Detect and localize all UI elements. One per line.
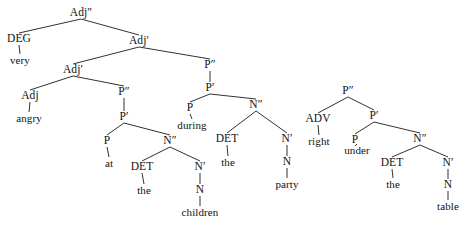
terminal-word-during: during <box>177 120 206 131</box>
terminal-word-children: children <box>182 207 219 218</box>
tree-node-n-bar2: N″ <box>249 99 262 111</box>
tree-node-p-bar2: P″ <box>118 86 129 98</box>
terminal-word-very: very <box>10 55 30 66</box>
terminal-word-right: right <box>308 136 329 147</box>
tree-node-n-bar: N′ <box>281 133 292 145</box>
tree-node-det: DET <box>131 161 154 173</box>
tree-node-n-bar: N′ <box>442 157 453 169</box>
tree-branch <box>107 147 109 157</box>
terminal-word-the: the <box>221 157 235 168</box>
terminal-word-the: the <box>386 179 400 190</box>
tree-branch <box>81 19 139 35</box>
terminal-word-table: table <box>437 201 459 212</box>
tree-node-adj-bar2: Adj″ <box>70 7 92 19</box>
tree-node-n: N <box>283 156 291 168</box>
tree-node-p-bar: P′ <box>369 110 378 122</box>
tree-branch <box>355 122 374 134</box>
tree-branch <box>73 47 139 64</box>
tree-node-adj-bar: Adj′ <box>63 64 83 76</box>
tree-branch <box>420 145 448 157</box>
tree-branch <box>170 147 200 161</box>
tree-branch <box>19 19 81 33</box>
syntax-tree-diagram: Adj″DEGveryAdj′Adj′AdjangryP″P′PatN″DETt… <box>0 0 465 225</box>
tree-node-adv: ADV <box>305 113 330 125</box>
tree-node-p: P <box>187 102 194 114</box>
tree-branch <box>392 145 420 157</box>
tree-branch <box>107 123 124 135</box>
tree-branch <box>73 76 124 86</box>
terminal-word-under: under <box>344 145 370 156</box>
tree-branch <box>30 76 73 90</box>
tree-node-p: P <box>104 135 111 147</box>
tree-branch <box>256 111 287 133</box>
tree-node-adj-bar: Adj′ <box>129 35 149 47</box>
tree-node-n-bar2: N″ <box>413 133 426 145</box>
tree-branch <box>227 111 256 133</box>
tree-node-p-bar2: P″ <box>204 59 215 71</box>
tree-node-p-bar: P′ <box>119 111 128 123</box>
tree-branch <box>142 173 144 184</box>
tree-node-det: DET <box>216 133 239 145</box>
tree-branch <box>318 97 348 113</box>
tree-node-p-bar2: P″ <box>342 85 353 97</box>
tree-branch <box>124 123 170 135</box>
tree-branch <box>142 147 170 161</box>
tree-branch <box>29 102 30 112</box>
tree-node-adj: Adj <box>21 90 39 102</box>
tree-branch <box>139 47 210 59</box>
tree-node-n: N <box>444 179 452 191</box>
tree-edges-layer <box>0 0 465 225</box>
tree-branch <box>227 145 228 156</box>
tree-node-deg: DEG <box>7 33 31 45</box>
tree-node-n-bar: N′ <box>194 161 205 173</box>
terminal-word-angry: angry <box>16 113 42 124</box>
terminal-word-party: party <box>275 179 298 190</box>
terminal-word-the: the <box>137 185 151 196</box>
tree-branch <box>348 97 374 110</box>
terminal-word-at: at <box>105 158 113 169</box>
tree-node-n: N <box>196 184 204 196</box>
tree-node-n-bar2: N″ <box>163 135 176 147</box>
tree-branch <box>318 125 319 135</box>
tree-node-det: DET <box>381 157 404 169</box>
tree-node-p-bar: P′ <box>205 82 214 94</box>
